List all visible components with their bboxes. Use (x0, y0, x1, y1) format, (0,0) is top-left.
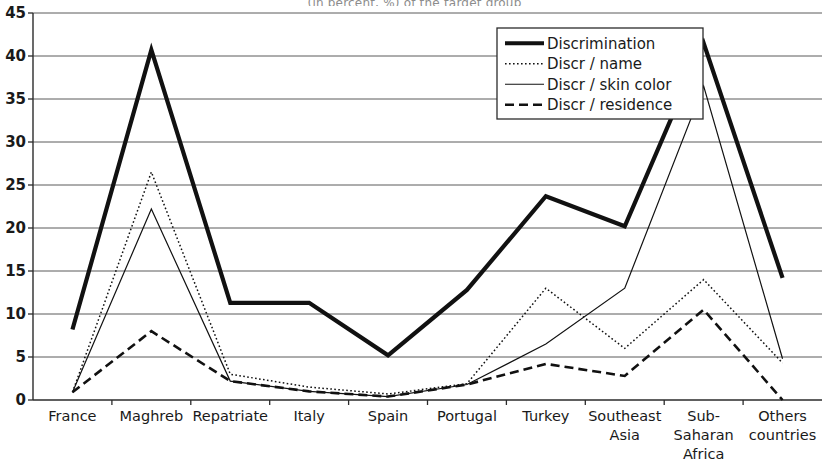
y-tick-label: 40 (5, 47, 26, 65)
x-tick-label: Otherscountries (749, 408, 816, 443)
y-tick-label: 20 (5, 219, 26, 237)
chart-root: (in percent, %) of the target group 0510… (0, 0, 829, 473)
series-line (72, 172, 782, 394)
legend-label: Discr / residence (547, 96, 672, 114)
x-axis-tickmarks (112, 400, 743, 405)
x-axis-tick-labels: FranceMaghrebRepatriateItalySpainPortuga… (48, 408, 816, 462)
x-tick-label: Turkey (521, 408, 570, 424)
x-tick-label: Repatriate (192, 408, 268, 424)
legend-label: Discr / skin color (547, 76, 672, 94)
y-axis-tick-labels: 051015202530354045 (5, 4, 33, 409)
y-tick-label: 25 (5, 176, 26, 194)
x-tick-label: France (48, 408, 96, 424)
x-tick-label: Portugal (437, 408, 497, 424)
chart-legend: DiscriminationDiscr / nameDiscr / skin c… (497, 28, 703, 119)
y-tick-label: 30 (5, 133, 26, 151)
y-tick-label: 35 (5, 90, 26, 108)
y-tick-label: 5 (16, 348, 26, 366)
x-tick-label: Sub-SaharanAfrica (674, 408, 734, 462)
x-tick-label: Italy (293, 408, 325, 424)
x-tick-label: Maghreb (120, 408, 184, 424)
legend-label: Discr / name (547, 55, 642, 73)
legend-label: Discrimination (547, 35, 655, 53)
y-tick-label: 45 (5, 4, 26, 22)
line-chart: 051015202530354045 FranceMaghrebRepatria… (0, 0, 829, 473)
gridlines (33, 13, 822, 357)
y-tick-label: 0 (16, 391, 26, 409)
y-tick-label: 15 (5, 262, 26, 280)
x-tick-label: Spain (368, 408, 409, 424)
y-tick-label: 10 (5, 305, 26, 323)
x-tick-label: SoutheastAsia (588, 408, 662, 443)
